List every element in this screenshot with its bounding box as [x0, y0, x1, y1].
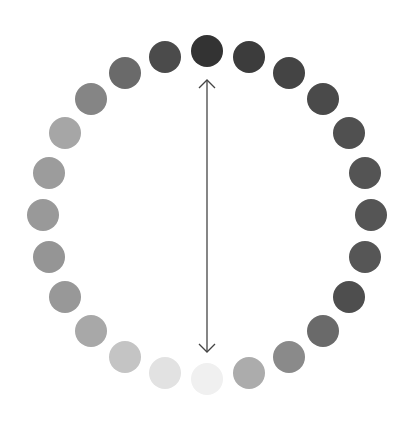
hue-circle-diagram — [0, 0, 406, 426]
double-headed-arrow-icon — [0, 0, 406, 426]
